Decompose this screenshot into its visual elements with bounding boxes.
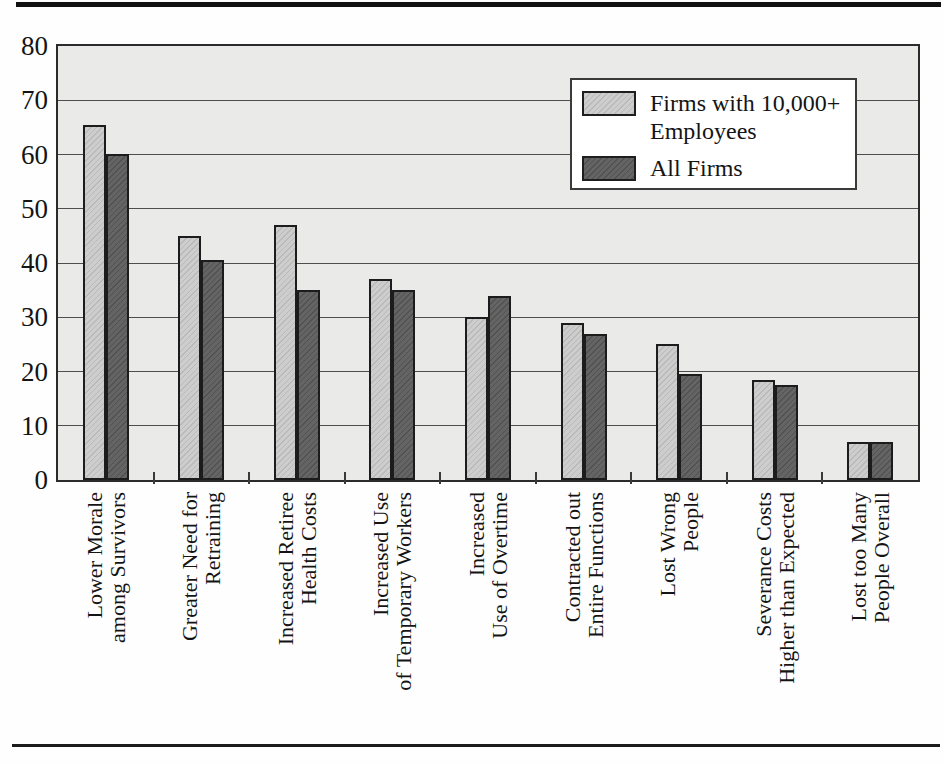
bar-dark-6 (584, 334, 607, 480)
x-axis-tick-1 (153, 472, 155, 484)
bar-light-6 (561, 323, 584, 480)
x-category-label-line: Higher than Expected (775, 492, 798, 742)
legend-entry-all-firms: All Firms (582, 154, 845, 182)
x-category-label-9: Lost too ManyPeople Overall (847, 492, 893, 742)
x-category-label-line: Lost too Many (847, 492, 870, 742)
y-tick-label-70: 70 (0, 85, 48, 115)
x-category-label-line: Entire Functions (584, 492, 607, 742)
bar-dark-7 (679, 374, 702, 480)
bar-light-3 (274, 225, 297, 480)
x-axis-tick-6 (630, 472, 632, 484)
x-category-label-line: Increased Use (369, 492, 392, 742)
y-tick-label-0: 0 (0, 465, 48, 495)
x-category-label-3: Increased RetireeHealth Costs (274, 492, 320, 742)
x-category-label-line: Health Costs (297, 492, 320, 742)
x-category-label-line: Retraining (201, 492, 224, 742)
figure: Firms with 10,000+ Employees All Firms 0… (0, 0, 944, 764)
y-tick-label-20: 20 (0, 357, 48, 387)
x-category-label-line: of Temporary Workers (392, 492, 415, 742)
legend-label: Firms with 10,000+ Employees (650, 89, 845, 145)
legend-swatch-light (582, 91, 636, 116)
y-tick-label-50: 50 (0, 194, 48, 224)
legend-label: All Firms (650, 154, 743, 182)
x-category-label-1: Lower Moraleamong Survivors (83, 492, 129, 742)
legend-swatch-dark (582, 156, 636, 181)
x-category-label-line: Severance Costs (752, 492, 775, 742)
top-rule (16, 2, 941, 7)
bar-light-4 (369, 279, 392, 480)
bar-dark-3 (297, 290, 320, 480)
x-category-label-line: Greater Need for (178, 492, 201, 742)
legend: Firms with 10,000+ Employees All Firms (570, 78, 857, 190)
x-category-label-5: IncreasedUse of Overtime (465, 492, 511, 742)
x-axis-tick-4 (439, 472, 441, 484)
gridline-50 (58, 208, 918, 209)
x-category-label-line: People (679, 492, 702, 742)
legend-entry-firms-10000: Firms with 10,000+ Employees (582, 89, 845, 145)
x-axis-tick-5 (535, 472, 537, 484)
bar-dark-4 (392, 290, 415, 480)
x-axis-tick-8 (821, 472, 823, 484)
x-category-label-8: Severance CostsHigher than Expected (752, 492, 798, 742)
x-category-label-line: Increased (465, 492, 488, 742)
bar-dark-5 (488, 296, 511, 480)
bar-dark-8 (775, 385, 798, 480)
bar-light-2 (178, 236, 201, 480)
x-axis-tick-2 (248, 472, 250, 484)
x-category-label-line: among Survivors (106, 492, 129, 742)
bar-dark-1 (106, 154, 129, 480)
x-category-label-line: People Overall (870, 492, 893, 742)
y-tick-label-30: 30 (0, 302, 48, 332)
x-category-label-7: Lost WrongPeople (656, 492, 702, 742)
bar-dark-9 (870, 442, 893, 480)
y-tick-label-40: 40 (0, 248, 48, 278)
x-axis-tick-7 (726, 472, 728, 484)
x-category-label-2: Greater Need forRetraining (178, 492, 224, 742)
bar-light-5 (465, 317, 488, 480)
x-category-label-line: Lower Morale (83, 492, 106, 742)
bar-light-1 (83, 125, 106, 480)
bar-light-7 (656, 344, 679, 480)
x-axis-tick-3 (344, 472, 346, 484)
bottom-rule (12, 744, 940, 747)
y-tick-label-10: 10 (0, 411, 48, 441)
x-category-label-6: Contracted outEntire Functions (561, 492, 607, 742)
y-tick-label-60: 60 (0, 140, 48, 170)
bar-dark-2 (201, 260, 224, 480)
x-category-label-line: Use of Overtime (488, 492, 511, 742)
bar-light-9 (847, 442, 870, 480)
x-category-label-line: Lost Wrong (656, 492, 679, 742)
bar-light-8 (752, 380, 775, 480)
y-tick-label-80: 80 (0, 31, 48, 61)
x-category-label-line: Contracted out (561, 492, 584, 742)
x-category-label-line: Increased Retiree (274, 492, 297, 742)
x-category-label-4: Increased Useof Temporary Workers (369, 492, 415, 742)
